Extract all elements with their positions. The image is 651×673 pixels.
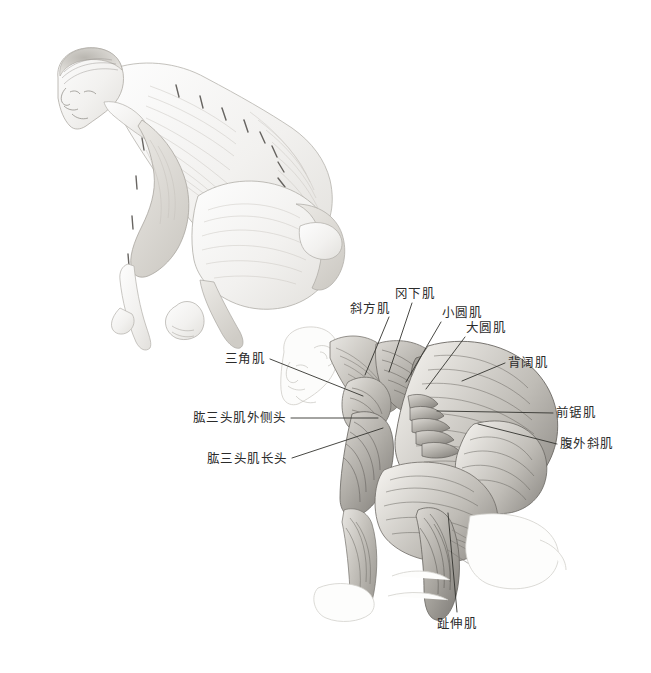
leader-line-triceps-long-head	[292, 428, 383, 458]
leader-line-serratus-anterior	[437, 411, 553, 413]
label-external-oblique: 腹外斜肌	[560, 437, 614, 451]
leader-line-external-oblique	[478, 424, 557, 444]
leader-lines	[0, 0, 651, 673]
label-serratus-anterior: 前锯肌	[556, 406, 596, 420]
illustration-page: 斜方肌冈下肌小圆肌大圆肌背阔肌前锯肌腹外斜肌三角肌肱三头肌外侧头肱三头肌长头趾伸…	[0, 0, 651, 673]
label-deltoid: 三角肌	[225, 352, 265, 366]
leader-line-trapezius	[365, 317, 389, 375]
leader-line-deltoid	[270, 359, 363, 396]
label-trapezius: 斜方肌	[350, 302, 390, 316]
leader-line-teres-minor	[406, 322, 441, 382]
label-extensor-digitorum: 趾伸肌	[437, 617, 477, 631]
leader-line-extensor-digitorum	[448, 513, 457, 612]
label-teres-minor: 小圆肌	[442, 306, 482, 320]
leader-line-teres-major	[426, 337, 465, 389]
leader-line-infraspinatus	[389, 303, 412, 372]
leader-line-latissimus-dorsi	[462, 363, 505, 381]
label-triceps-long-head: 肱三头肌长头	[207, 452, 287, 466]
label-infraspinatus: 冈下肌	[395, 287, 435, 301]
label-triceps-lateral-head: 肱三头肌外侧头	[193, 411, 287, 425]
label-teres-major: 大圆肌	[466, 321, 506, 335]
label-latissimus-dorsi: 背阔肌	[508, 356, 548, 370]
